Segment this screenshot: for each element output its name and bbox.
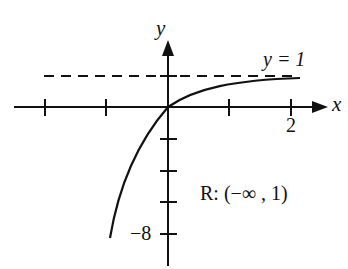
x-tick-label-2: 2 [286,114,296,137]
x-axis-arrow-icon [312,101,328,113]
range-annotation: R: (−∞ , 1) [200,182,288,205]
y-tick-label-neg8: −8 [130,222,151,245]
x-axis-label: x [332,92,341,117]
function-curve [110,78,300,238]
y-axis-arrow-icon [162,40,174,56]
y-axis-label: y [156,16,165,41]
asymptote-label: y = 1 [263,48,305,71]
